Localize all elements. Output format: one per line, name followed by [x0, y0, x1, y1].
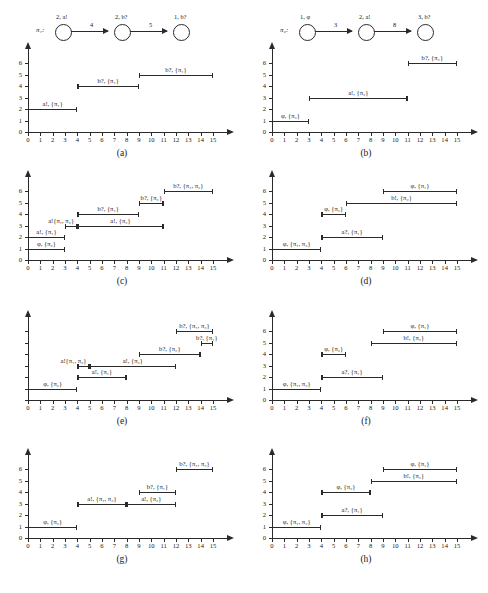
- interval-segment[interactable]: [321, 214, 346, 215]
- chart-a: 01234567891011121314150123456a!, {π₁}b?,…: [0, 44, 244, 149]
- interval-segment[interactable]: [139, 354, 201, 355]
- x-tick-label: 3: [304, 542, 314, 549]
- interval-segment[interactable]: [383, 331, 457, 332]
- automaton-state-3[interactable]: [417, 24, 434, 41]
- interval-segment[interactable]: [77, 377, 126, 378]
- segment-label: φ, {π₂}: [306, 483, 386, 490]
- interval-segment[interactable]: [309, 98, 408, 99]
- y-tick: [25, 226, 28, 227]
- y-tick-label: 3: [256, 222, 266, 229]
- interval-segment[interactable]: [383, 469, 457, 470]
- segment-start-cap: [272, 247, 273, 252]
- interval-segment[interactable]: [321, 354, 346, 355]
- x-tick-label: 2: [48, 542, 58, 549]
- interval-segment[interactable]: [77, 366, 89, 367]
- segment-end-cap: [212, 467, 213, 472]
- interval-segment[interactable]: [139, 203, 164, 204]
- segment-end-cap: [345, 352, 346, 357]
- segment-end-cap: [125, 375, 126, 380]
- interval-segment[interactable]: [272, 527, 321, 528]
- segment-end-cap: [382, 513, 383, 518]
- x-tick-label: 3: [304, 264, 314, 271]
- interval-segment[interactable]: [321, 237, 383, 238]
- interval-segment[interactable]: [28, 249, 65, 250]
- interval-segment[interactable]: [90, 366, 176, 367]
- interval-segment[interactable]: [77, 214, 139, 215]
- automaton-state-2[interactable]: [358, 24, 375, 41]
- interval-segment[interactable]: [321, 515, 383, 516]
- interval-segment[interactable]: [28, 527, 77, 528]
- automaton-state-3[interactable]: [173, 24, 190, 41]
- segment-start-cap: [321, 212, 322, 217]
- interval-segment[interactable]: [272, 389, 321, 390]
- x-tick-label: 2: [292, 404, 302, 411]
- x-tick-label: 10: [390, 404, 400, 411]
- interval-segment[interactable]: [272, 249, 321, 250]
- x-tick-label: 2: [292, 136, 302, 143]
- x-tick-label: 1: [279, 136, 289, 143]
- x-tick-label: 12: [415, 404, 425, 411]
- x-tick-label: 4: [316, 136, 326, 143]
- x-tick-label: 13: [183, 264, 193, 271]
- automaton-state-2[interactable]: [114, 24, 131, 41]
- x-tick-label: 9: [378, 136, 388, 143]
- interval-segment[interactable]: [272, 121, 309, 122]
- segment-label: φ, {π₁, π₂}: [257, 518, 337, 525]
- interval-segment[interactable]: [77, 504, 126, 505]
- segment-start-cap: [139, 352, 140, 357]
- interval-segment[interactable]: [371, 343, 457, 344]
- interval-segment[interactable]: [77, 226, 163, 227]
- y-tick-label: 6: [12, 187, 22, 194]
- segment-start-cap: [383, 189, 384, 194]
- y-tick: [269, 191, 272, 192]
- interval-segment[interactable]: [383, 191, 457, 192]
- automaton-state-1[interactable]: [299, 24, 316, 41]
- x-tick-label: 7: [353, 542, 363, 549]
- interval-segment[interactable]: [321, 492, 370, 493]
- segment-end-cap: [199, 352, 200, 357]
- interval-segment[interactable]: [28, 237, 65, 238]
- panel-caption-f: (f): [244, 416, 488, 426]
- segment-end-cap: [345, 212, 346, 217]
- segment-label: φ, {π₂}: [294, 205, 374, 212]
- interval-segment[interactable]: [346, 203, 457, 204]
- x-tick-label: 1: [279, 264, 289, 271]
- interval-segment[interactable]: [65, 226, 77, 227]
- segment-label: b!, {π₂}: [362, 194, 442, 201]
- interval-segment[interactable]: [77, 86, 139, 87]
- interval-segment[interactable]: [201, 343, 213, 344]
- segment-start-cap: [77, 84, 78, 89]
- x-tick-label: 2: [48, 136, 58, 143]
- y-tick: [269, 214, 272, 215]
- segment-start-cap: [65, 224, 66, 229]
- interval-segment[interactable]: [127, 504, 176, 505]
- x-tick-label: 8: [366, 404, 376, 411]
- interval-segment[interactable]: [321, 377, 383, 378]
- segment-end-cap: [320, 247, 321, 252]
- x-tick-label: 8: [122, 264, 132, 271]
- y-tick: [25, 354, 28, 355]
- automaton-transition-label-2: 8: [393, 21, 396, 28]
- interval-segment[interactable]: [371, 481, 457, 482]
- y-tick-label: 3: [12, 500, 22, 507]
- segment-end-cap: [175, 502, 176, 507]
- segment-start-cap: [272, 387, 273, 392]
- x-tick-label: 14: [196, 404, 206, 411]
- interval-segment[interactable]: [139, 75, 213, 76]
- interval-segment[interactable]: [164, 191, 213, 192]
- interval-segment[interactable]: [408, 63, 457, 64]
- interval-segment[interactable]: [176, 469, 213, 470]
- automaton-state-1[interactable]: [55, 24, 72, 41]
- x-tick-label: 1: [35, 136, 45, 143]
- x-tick-label: 8: [366, 264, 376, 271]
- interval-segment[interactable]: [28, 109, 77, 110]
- interval-segment[interactable]: [176, 331, 213, 332]
- y-tick-label: 4: [256, 82, 266, 89]
- interval-segment[interactable]: [139, 492, 176, 493]
- segment-end-cap: [456, 201, 457, 206]
- x-tick-label: 7: [109, 264, 119, 271]
- automaton-a: π₁:2, a!2, b?1, b?45: [0, 0, 244, 44]
- interval-segment[interactable]: [28, 389, 77, 390]
- y-tick: [25, 515, 28, 516]
- automaton-transition-label-2: 5: [149, 21, 152, 28]
